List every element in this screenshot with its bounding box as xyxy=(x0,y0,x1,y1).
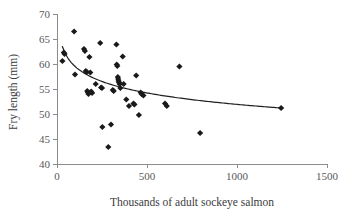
chart-background xyxy=(0,0,354,215)
x-tick-label: 500 xyxy=(139,170,156,182)
y-tick-label: 65 xyxy=(39,33,51,45)
x-axis-title: Thousands of adult sockeye salmon xyxy=(110,196,274,209)
y-tick-label: 70 xyxy=(39,8,51,20)
x-tick-label: 1000 xyxy=(226,170,249,182)
scatter-chart-figure: 40455055606570 050010001500 Thousands of… xyxy=(0,0,354,215)
plot-area: 40455055606570 050010001500 Thousands of… xyxy=(0,0,354,215)
y-tick-label: 60 xyxy=(39,58,51,70)
y-tick-label: 40 xyxy=(39,158,51,170)
x-tick-label: 1500 xyxy=(316,170,339,182)
y-axis-title: Fry length (mm) xyxy=(7,54,20,130)
y-tick-label: 45 xyxy=(39,133,51,145)
x-tick-label: 0 xyxy=(54,170,60,182)
y-tick-label: 50 xyxy=(39,108,51,120)
y-tick-label: 55 xyxy=(39,83,51,95)
